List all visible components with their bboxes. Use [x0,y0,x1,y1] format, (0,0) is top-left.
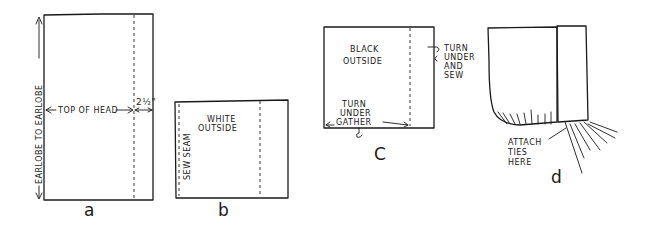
top-of-head-label: TOP OF HEAD [57,106,118,115]
gather-marks [498,110,551,124]
figure-a: EARLOBE TO EARLOBE TOP OF HEAD 2½" a [35,14,156,220]
white-label: WHITE [207,115,236,124]
black-label: BLACK [350,45,379,54]
under-label-right: UNDER [444,53,475,62]
gather-arrow-left-icon [326,122,334,127]
figure-label-b: b [218,200,229,220]
bonnet-body [488,27,557,125]
gather-arrow-right-icon [383,122,408,127]
turn-under-hook-icon [356,128,362,137]
allowance-arrow-icon [135,108,152,112]
turn-label-right: TURN [443,44,468,53]
figure-label-d: d [551,167,562,187]
bonnet-brim [557,26,588,122]
pointer-line [549,128,566,139]
figure-d: ATTACH TIES HERE d [488,26,617,187]
turn-label-bottom: TURN [341,100,366,109]
ties [565,122,617,173]
figure-b: SEW SEAM WHITE OUTSIDE b [175,100,288,220]
and-label-right: AND [444,62,463,71]
here-label: HERE [508,158,532,167]
figure-label-a: a [84,200,94,220]
attach-label: ATTACH [508,138,542,147]
sew-seam-label: SEW SEAM [183,133,192,180]
ties-label: TIES [507,148,527,157]
outside-label: OUTSIDE [198,124,237,133]
figure-c: BLACK OUTSIDE TURN UNDER AND SEW TURN UN… [324,27,475,164]
earlobe-to-earlobe-label: EARLOBE TO EARLOBE [35,85,44,184]
sewing-diagram: EARLOBE TO EARLOBE TOP OF HEAD 2½" a SEW… [0,0,645,228]
allowance-label: 2½" [136,97,156,107]
figure-label-c: C [374,144,386,164]
gather-label-bottom: GATHER [336,118,372,127]
sew-label-right: SEW [444,71,464,80]
under-label-bottom: UNDER [340,109,371,118]
outside-label-c: OUTSIDE [343,57,382,66]
